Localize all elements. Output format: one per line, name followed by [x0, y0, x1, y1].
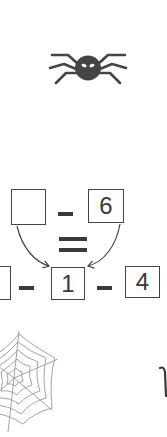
hanging-thread-icon [0, 0, 167, 437]
